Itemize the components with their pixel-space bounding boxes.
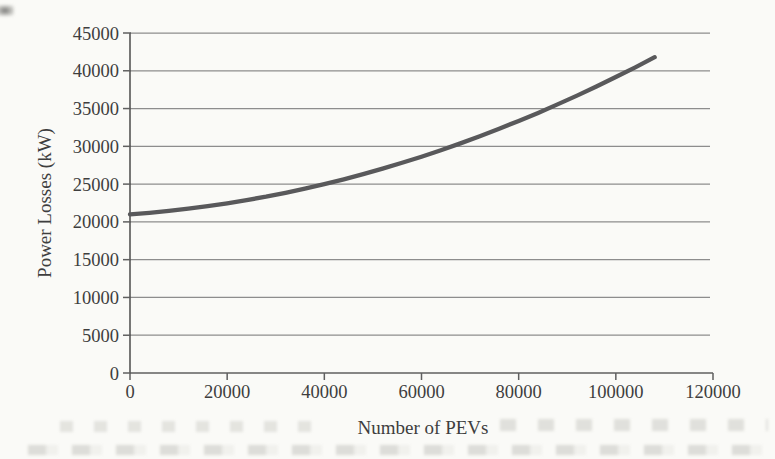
y-tick-label: 10000 <box>73 288 119 308</box>
x-tick-label: 80000 <box>496 382 542 402</box>
x-tick-label: 120000 <box>685 382 741 402</box>
x-tick-label: 40000 <box>301 382 347 402</box>
y-tick-label: 45000 <box>73 24 119 44</box>
power-losses-chart: 0500010000150002000025000300003500040000… <box>0 0 775 459</box>
power-loss-curve <box>130 57 655 214</box>
y-tick-label: 5000 <box>82 326 119 346</box>
x-tick-label: 60000 <box>398 382 444 402</box>
x-axis-title: Number of PEVs <box>358 417 489 439</box>
chart-plot-area: 0500010000150002000025000300003500040000… <box>0 0 775 459</box>
y-axis-title: Power Losses (kW) <box>34 128 56 278</box>
y-tick-label: 0 <box>110 364 119 384</box>
y-tick-label: 15000 <box>73 250 119 270</box>
y-tick-label: 40000 <box>73 61 119 81</box>
x-tick-label: 0 <box>125 382 134 402</box>
y-tick-label: 25000 <box>73 175 119 195</box>
y-tick-label: 30000 <box>73 137 119 157</box>
x-tick-label: 20000 <box>204 382 250 402</box>
y-tick-label: 35000 <box>73 99 119 119</box>
y-tick-label: 20000 <box>73 212 119 232</box>
x-tick-label: 100000 <box>588 382 644 402</box>
